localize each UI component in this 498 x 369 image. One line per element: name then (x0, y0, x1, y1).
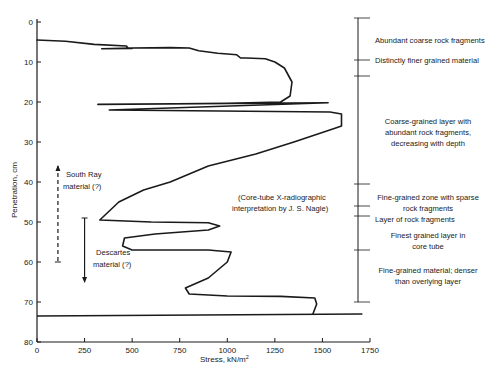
y-tick-label: 30 (24, 138, 33, 147)
nagle-note-2: interpretation by J. S. Nagle) (232, 204, 329, 213)
south-ray-label-2: material (?) (63, 182, 102, 191)
descartes-label-2: material (?) (93, 260, 132, 269)
y-tick-label: 10 (24, 58, 33, 67)
arrow-up-icon (55, 165, 60, 171)
y-tick-label: 80 (24, 338, 33, 347)
x-tick-label: 1250 (266, 346, 284, 355)
strata-label: Coarse-grained layer with (385, 117, 472, 126)
strata-label: decreasing with depth (391, 139, 465, 148)
y-tick-label: 70 (24, 298, 33, 307)
strata-label: Distinctly finer grained material (375, 56, 479, 65)
penetrometer-chart: 0102030405060708002505007501000125015001… (0, 0, 498, 369)
strata-label: than overlying layer (395, 277, 461, 286)
arrow-down-icon (82, 277, 87, 283)
x-tick-label: 1000 (218, 346, 236, 355)
y-tick-label: 50 (24, 218, 33, 227)
x-tick-label: 1500 (314, 346, 332, 355)
strata-label: abundant rock fragments, (385, 128, 471, 137)
x-tick-label: 0 (35, 346, 40, 355)
strata-label: Layer of rock fragments (375, 215, 455, 224)
y-tick-label: 40 (24, 178, 33, 187)
y-tick-label: 0 (29, 18, 34, 27)
x-tick-label: 250 (78, 346, 92, 355)
descartes-label-1: Descartes (96, 248, 130, 257)
y-tick-label: 60 (24, 258, 33, 267)
strata-label: Finest grained layer in (391, 231, 466, 240)
x-tick-label: 1750 (361, 346, 379, 355)
strata-label: rock fragments (403, 204, 453, 213)
strata-label: core tube (412, 242, 444, 251)
strata-column: Abundant coarse rock fragmentsDistinctly… (354, 18, 485, 302)
strata-label: Abundant coarse rock fragments (375, 36, 485, 45)
strata-label: Fine-grained zone with sparse (377, 193, 479, 202)
x-tick-label: 500 (125, 346, 139, 355)
y-tick-label: 20 (24, 98, 33, 107)
bottom-of-core-line (37, 314, 362, 316)
nagle-note-1: (Core-tube X-radiographic (238, 193, 326, 202)
strata-label: Fine-grained material; denser (378, 266, 478, 275)
south-ray-label-1: South Ray (66, 170, 102, 179)
x-axis-label: Stress, kN/m2 (200, 354, 249, 364)
x-tick-label: 750 (173, 346, 187, 355)
y-axis-label: Penetration, cm (10, 162, 19, 218)
